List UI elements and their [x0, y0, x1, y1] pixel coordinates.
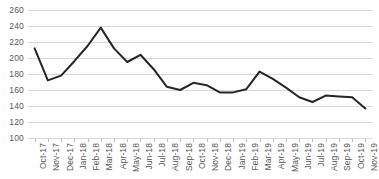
y-axis-tick-label: 180 [0, 69, 24, 79]
x-axis-tick-mark [246, 139, 247, 142]
x-axis-tick-label: Sep-18 [184, 143, 194, 171]
x-axis-tick-mark [114, 139, 115, 142]
x-axis: Oct-17Nov-17Dec-17Jan-18Feb-18Mar-18Apr-… [28, 139, 372, 179]
x-axis-tick-mark [339, 139, 340, 142]
x-axis-tick-label: Jan-18 [78, 143, 88, 170]
x-axis-tick-mark [88, 139, 89, 142]
x-axis-tick-label: Mar-19 [263, 143, 273, 171]
x-axis-tick-mark [326, 139, 327, 142]
x-axis-tick-mark [207, 139, 208, 142]
x-axis-tick-mark [180, 139, 181, 142]
x-axis-tick-mark [74, 139, 75, 142]
x-axis-tick-label: Apr-19 [276, 143, 286, 169]
x-axis-tick-label: Jul-18 [157, 143, 167, 167]
x-axis-tick-label: Nov-18 [210, 143, 220, 171]
x-axis-tick-mark [167, 139, 168, 142]
x-axis-tick-mark [273, 139, 274, 142]
x-axis-tick-mark [61, 139, 62, 142]
x-axis-tick-mark [312, 139, 313, 142]
x-axis-tick-label: May-18 [131, 143, 141, 172]
x-axis-tick-label: Aug-18 [170, 143, 180, 171]
x-axis-tick-mark [193, 139, 194, 142]
x-axis-tick-mark [286, 139, 287, 142]
x-axis-tick-label: May-19 [290, 143, 300, 172]
x-axis-tick-mark [154, 139, 155, 142]
x-axis-tick-label: Dec-17 [65, 143, 75, 171]
x-axis-tick-label: Jun-18 [144, 143, 154, 170]
y-axis-tick-label: 220 [0, 37, 24, 47]
x-axis-tick-mark [140, 139, 141, 142]
x-axis-tick-label: Feb-19 [250, 143, 260, 171]
x-axis-tick-mark [299, 139, 300, 142]
x-axis-tick-mark [365, 139, 366, 142]
x-axis-tick-label: Aug-19 [329, 143, 339, 171]
x-axis-tick-label: Jul-19 [316, 143, 326, 167]
y-axis-tick-label: 100 [0, 133, 24, 143]
x-axis-tick-mark [233, 139, 234, 142]
x-axis-tick-label: Mar-18 [104, 143, 114, 171]
x-axis-tick-mark [260, 139, 261, 142]
x-axis-tick-label: Nov-17 [51, 143, 61, 171]
x-axis-tick-label: Oct-17 [38, 143, 48, 169]
y-axis-tick-label: 260 [0, 5, 24, 15]
y-axis-tick-label: 200 [0, 53, 24, 63]
x-axis-tick-mark [48, 139, 49, 142]
y-axis-tick-label: 140 [0, 101, 24, 111]
x-axis-tick-label: Dec-18 [223, 143, 233, 171]
x-axis-tick-label: Sep-19 [342, 143, 352, 171]
x-axis-tick-label: Apr-18 [118, 143, 128, 169]
y-axis-tick-label: 240 [0, 21, 24, 31]
x-axis-tick-mark [127, 139, 128, 142]
x-axis-tick-label: Oct-18 [197, 143, 207, 169]
x-axis-tick-label: Oct-19 [356, 143, 366, 169]
y-axis-tick-label: 160 [0, 85, 24, 95]
x-axis-tick-mark [101, 139, 102, 142]
x-axis-tick-mark [35, 139, 36, 142]
x-axis-tick-label: Nov-19 [369, 143, 379, 171]
x-axis-tick-label: Jun-19 [303, 143, 313, 170]
y-axis: 100120140160180200220240260 [0, 0, 24, 179]
x-axis-tick-mark [352, 139, 353, 142]
x-axis-tick-mark [220, 139, 221, 142]
x-axis-tick-label: Jan-19 [237, 143, 247, 170]
x-axis-tick-label: Feb-18 [91, 143, 101, 171]
y-axis-tick-label: 120 [0, 117, 24, 127]
